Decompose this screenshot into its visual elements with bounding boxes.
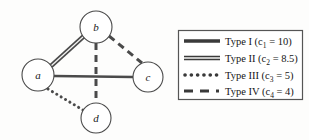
edge-a-b-inner [51,36,84,66]
legend: Type I (c1 = 10) Type II (c2 = 8.5) Type… [179,31,303,100]
node-layer: a b c d [22,11,163,133]
graph-figure: a b c d Type I (c1 = 10) [0,0,309,140]
node-a[interactable]: a [22,59,54,91]
node-d-label: d [93,112,99,124]
node-b[interactable]: b [80,11,112,43]
node-a-label: a [35,69,41,81]
node-b-label: b [93,21,99,33]
diagram-canvas: a b c d Type I (c1 = 10) [0,0,309,140]
node-d[interactable]: d [81,103,111,133]
edge-a-c [54,76,133,77]
node-c[interactable]: c [133,62,163,92]
edge-a-d [48,89,83,110]
edge-a-b [51,36,84,66]
edge-layer [48,36,142,110]
edge-b-c [109,36,142,63]
node-c-label: c [146,71,151,83]
